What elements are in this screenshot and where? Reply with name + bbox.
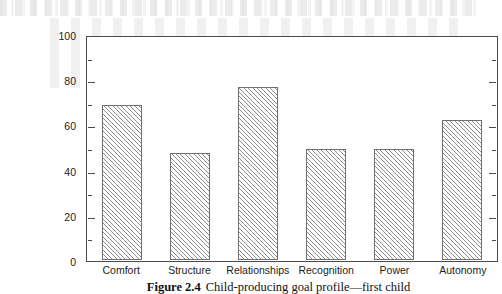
- bar-comfort: [102, 105, 143, 260]
- bar-chart-figure: 020406080100 ComfortStructureRelationshi…: [40, 16, 502, 294]
- y-tick-label: 100: [58, 31, 76, 42]
- y-tick-minor-left: [88, 195, 92, 196]
- bar-slot: [156, 38, 224, 260]
- y-tick-major-right: [489, 82, 496, 83]
- y-tick-major-right: [489, 127, 496, 128]
- bar-slot: [224, 38, 292, 260]
- caption-text: Child-producing goal profile—first child: [206, 280, 410, 294]
- y-tick-major-left: [88, 82, 95, 83]
- y-tick-minor-left: [88, 240, 92, 241]
- y-tick-major-right: [489, 173, 496, 174]
- bar-slot: [428, 38, 496, 260]
- y-tick-minor-right: [492, 105, 496, 106]
- y-tick-label: 60: [64, 121, 76, 132]
- y-tick-major-left: [88, 127, 95, 128]
- y-tick-label: 0: [70, 257, 76, 268]
- y-tick-label: 80: [64, 76, 76, 87]
- x-tick-label-relationships: Relationships: [224, 264, 292, 276]
- x-axis-category-labels: ComfortStructureRelationshipsRecognition…: [87, 264, 497, 276]
- caption-number: Figure 2.4: [147, 280, 201, 294]
- figure-caption: Figure 2.4Child-producing goal profile—f…: [40, 280, 502, 294]
- x-tick-label-comfort: Comfort: [87, 264, 155, 276]
- y-axis: 020406080100: [40, 36, 82, 262]
- y-tick-major-left: [88, 218, 95, 219]
- bar-power: [374, 149, 415, 260]
- bar-relationships: [238, 87, 279, 260]
- bar-autonomy: [442, 120, 483, 260]
- plot-area: [86, 36, 498, 262]
- bar-slot: [360, 38, 428, 260]
- y-tick-minor-right: [492, 195, 496, 196]
- y-tick-minor-left: [88, 60, 92, 61]
- bar-slot: [292, 38, 360, 260]
- y-tick-minor-left: [88, 105, 92, 106]
- x-tick-label-structure: Structure: [155, 264, 223, 276]
- y-tick-minor-right: [492, 240, 496, 241]
- y-tick-minor-left: [88, 150, 92, 151]
- y-tick-minor-right: [492, 60, 496, 61]
- y-tick-label: 40: [64, 166, 76, 177]
- y-tick-label: 20: [64, 212, 76, 223]
- bar-structure: [170, 153, 211, 260]
- x-tick-label-power: Power: [360, 264, 428, 276]
- y-tick-minor-right: [492, 150, 496, 151]
- y-tick-major-left: [88, 173, 95, 174]
- x-tick-label-autonomy: Autonomy: [429, 264, 497, 276]
- bar-recognition: [306, 149, 347, 260]
- y-tick-major-right: [489, 218, 496, 219]
- bars-container: [88, 38, 496, 260]
- x-tick-label-recognition: Recognition: [292, 264, 360, 276]
- scan-bleed-top: [0, 0, 477, 16]
- bar-slot: [88, 38, 156, 260]
